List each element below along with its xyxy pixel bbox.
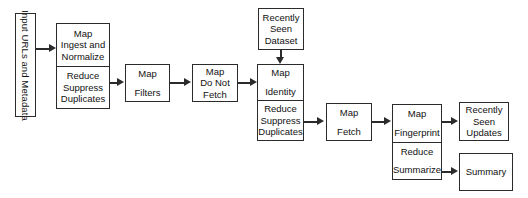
node-recently-seen-updates-cell: Recently Seen Updates bbox=[460, 102, 508, 141]
node-ingest-reduce-cell: Reduce Suppress Duplicates bbox=[57, 66, 109, 109]
identity-reduce-line2: Suppress bbox=[260, 115, 300, 127]
node-summary: Summary bbox=[459, 153, 513, 191]
node-filters-map-cell: Map Filters bbox=[126, 65, 169, 101]
node-input-urls-and-metadata: Input URLs and Metadata bbox=[15, 13, 36, 117]
arrowhead-do-not-fetch-to-identity bbox=[250, 78, 257, 86]
summarize-name-label: Summarize bbox=[393, 164, 441, 176]
flow-diagram-canvas: Input URLs and Metadata Map Ingest and N… bbox=[0, 0, 528, 198]
node-map-do-not-fetch: Map Do Not Fetch bbox=[192, 64, 238, 102]
summary-label: Summary bbox=[466, 166, 507, 178]
filters-name-label: Filters bbox=[135, 87, 161, 99]
rsu-line2-label: Seen bbox=[473, 116, 495, 128]
filters-map-label: Map bbox=[138, 68, 156, 80]
arrowhead-dataset-to-identity bbox=[276, 57, 284, 64]
arrowhead-input-to-ingest bbox=[49, 44, 56, 52]
ingest-map-label: Map bbox=[74, 28, 92, 40]
connector-input-to-ingest bbox=[36, 48, 50, 50]
node-recently-seen-dataset-cell: Recently Seen Dataset bbox=[259, 9, 303, 49]
arrowhead-filters-to-do-not-fetch bbox=[184, 78, 191, 86]
node-summary-cell: Summary bbox=[460, 154, 512, 190]
node-map-fetch: Map Fetch bbox=[326, 103, 372, 141]
node-identity-map-cell: Map Identity bbox=[258, 65, 303, 100]
rsd-line3-label: Dataset bbox=[265, 35, 298, 47]
dnf-line3-label: Fetch bbox=[203, 89, 227, 101]
ingest-reduce-label: Reduce bbox=[67, 70, 100, 82]
ingest-reduce-line2: Suppress bbox=[63, 82, 103, 94]
node-ingest-map-cell: Map Ingest and Normalize bbox=[57, 24, 109, 66]
identity-name-label: Identity bbox=[265, 86, 296, 98]
node-map-identity: Map Identity Reduce Suppress Duplicates bbox=[257, 64, 304, 141]
node-recently-seen-dataset: Recently Seen Dataset bbox=[258, 8, 304, 50]
rsu-line1-label: Recently bbox=[466, 104, 503, 116]
node-map-filters: Map Filters bbox=[125, 64, 170, 102]
rsu-line3-label: Updates bbox=[466, 127, 501, 139]
ingest-map-line3: Normalize bbox=[62, 51, 105, 63]
fingerprint-name-label: Fingerprint bbox=[394, 127, 439, 139]
identity-reduce-line3: Duplicates bbox=[258, 126, 302, 138]
rsd-line2-label: Seen bbox=[270, 23, 292, 35]
node-fingerprint-reduce-cell: Reduce Summarize bbox=[393, 142, 441, 180]
node-identity-reduce-cell: Reduce Suppress Duplicates bbox=[258, 100, 303, 140]
node-recently-seen-updates: Recently Seen Updates bbox=[459, 102, 509, 141]
fingerprint-map-label: Map bbox=[408, 108, 426, 120]
dnf-map-label: Map bbox=[206, 66, 224, 78]
dnf-line2-label: Do Not bbox=[200, 77, 230, 89]
ingest-reduce-line3: Duplicates bbox=[61, 93, 105, 105]
node-map-fingerprint: Map Fingerprint Reduce Summarize bbox=[392, 104, 442, 180]
arrowhead-ingest-to-filters bbox=[117, 78, 124, 86]
node-ingest-normalize: Map Ingest and Normalize Reduce Suppress… bbox=[56, 23, 110, 109]
rsd-line1-label: Recently bbox=[263, 12, 300, 24]
node-fingerprint-map-cell: Map Fingerprint bbox=[393, 105, 441, 142]
input-label-text: Input URLs and Metadata bbox=[20, 10, 31, 121]
fingerprint-reduce-label: Reduce bbox=[401, 146, 434, 158]
fetch-name-label: Fetch bbox=[337, 126, 361, 138]
arrowhead-fetch-to-fingerprint bbox=[384, 117, 391, 125]
node-fetch-cell: Map Fetch bbox=[327, 104, 371, 140]
identity-map-label: Map bbox=[271, 67, 289, 79]
arrowhead-identity-to-fetch bbox=[317, 117, 324, 125]
fetch-map-label: Map bbox=[340, 107, 358, 119]
node-do-not-fetch-cell: Map Do Not Fetch bbox=[193, 64, 237, 103]
ingest-map-line2: Ingest and bbox=[61, 39, 105, 51]
arrowhead-summarize-to-summary bbox=[451, 167, 458, 175]
identity-reduce-label: Reduce bbox=[264, 103, 297, 115]
arrowhead-fingerprint-to-updates bbox=[451, 117, 458, 125]
